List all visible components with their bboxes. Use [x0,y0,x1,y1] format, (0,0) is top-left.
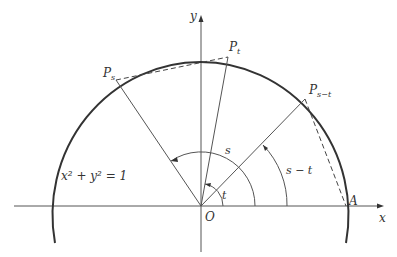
point-Ps-label: Ps [102,66,115,82]
origin-label: O [205,210,215,224]
y-axis-label: y [189,9,197,23]
x-axis-label: x [379,211,386,225]
angle-label-t: t [222,189,227,202]
radius-to-Ps [116,80,201,206]
chord-Pst-A [305,99,346,206]
point-A-label: A [348,194,358,208]
point-Pst-label: Ps−t [308,83,332,99]
angle-arc-s [171,152,255,206]
unit-circle-diagram: y x O A Pt Ps Ps−t t s s − t x² + y² = 1 [0,0,397,257]
chord-Ps-Pt [116,57,228,80]
point-Pt-label: Pt [228,40,241,56]
angle-arrow-t-icon [205,183,211,187]
y-axis-arrow-icon [199,15,204,22]
radius-to-Pt [201,57,228,206]
angle-arc-t [205,184,223,206]
x-axis-arrow-icon [377,204,384,209]
circle-equation-label: x² + y² = 1 [61,169,127,183]
angle-label-s-minus-t: s − t [286,164,313,177]
angle-label-s: s [225,144,231,157]
angle-arrow-s-icon [171,157,178,162]
angle-arc-s-minus-t [263,145,287,206]
